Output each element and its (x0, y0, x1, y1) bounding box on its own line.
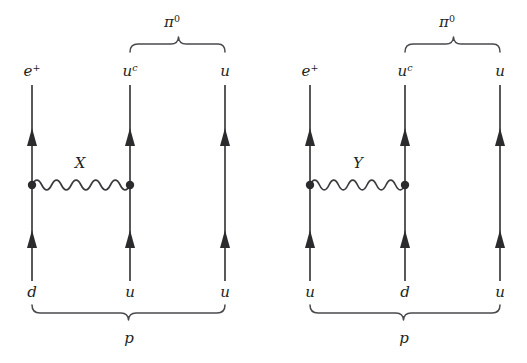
feynman-figure: π0 e+ uc u (0, 0, 527, 363)
arrowhead-up-left-col1-lower (27, 230, 37, 248)
pi-superscript-left: 0 (174, 13, 180, 24)
diagram-left: π0 e+ uc u (24, 13, 230, 347)
arrowhead-up-left-col3-upper (220, 128, 230, 146)
lower-brace-path-right (310, 305, 500, 320)
upper-brace-path-left (130, 37, 225, 52)
top-label-left-col1-sup: + (32, 62, 40, 73)
lower-brace-right (310, 305, 500, 320)
top-label-right-col2-base: u (398, 62, 408, 80)
arrowhead-up-left-col2-lower (125, 230, 135, 248)
top-label-left-col1: e+ (24, 62, 41, 80)
feynman-diagram-canvas: π0 e+ uc u (0, 0, 527, 363)
boson-wavy-line-left (32, 180, 130, 190)
top-label-right-col1-sup: + (310, 62, 318, 73)
vertex-dot-left-start (28, 181, 36, 189)
top-label-left-col2-base: u (123, 62, 133, 80)
boson-label-right: Y (353, 154, 365, 172)
arrowhead-up-right-col3-lower (495, 230, 505, 248)
bottom-label-right-col3: u (495, 283, 505, 301)
top-label-left-col1-base: e (24, 62, 33, 80)
upper-brace-label-left: π0 (163, 13, 180, 31)
bottom-label-left-col2: u (125, 283, 135, 301)
top-label-left-col3: u (220, 62, 230, 80)
top-label-left-col3-base: u (220, 62, 230, 80)
bottom-label-left-col3: u (220, 283, 230, 301)
lower-brace-label-right: p (399, 329, 409, 347)
arrowhead-up-left-col1-upper (27, 128, 37, 146)
top-label-right-col2-sup: c (407, 62, 413, 73)
arrowhead-up-right-col2-upper (400, 128, 410, 146)
top-label-left-col2: uc (123, 62, 139, 80)
bottom-label-right-col2: d (400, 283, 410, 301)
boson-wavy-line-right (310, 180, 405, 190)
bottom-label-left-col1: d (27, 283, 37, 301)
lower-brace-path-left (32, 305, 225, 320)
upper-brace-left (130, 37, 225, 52)
top-label-right-col1: e+ (302, 62, 319, 80)
arrowhead-up-right-col1-lower (305, 230, 315, 248)
arrowhead-up-left-col3-lower (220, 230, 230, 248)
arrowhead-up-left-col2-upper (125, 128, 135, 146)
vertex-dot-right-end (401, 181, 409, 189)
top-label-right-col3: u (495, 62, 505, 80)
vertex-dot-left-end (126, 181, 134, 189)
diagram-right: π0 e+ uc u (302, 13, 505, 347)
upper-brace-label-right: π0 (438, 13, 455, 31)
top-label-right-col3-base: u (495, 62, 505, 80)
upper-brace-right (405, 37, 500, 52)
arrowhead-up-right-col2-lower (400, 230, 410, 248)
arrowhead-up-right-col3-upper (495, 128, 505, 146)
bottom-label-right-col1: u (305, 283, 315, 301)
lower-brace-left (32, 305, 225, 320)
arrowhead-up-right-col1-upper (305, 128, 315, 146)
upper-brace-path-right (405, 37, 500, 52)
top-label-right-col2: uc (398, 62, 414, 80)
pi-superscript-right: 0 (449, 13, 455, 24)
top-label-left-col2-sup: c (132, 62, 138, 73)
boson-label-left: X (74, 154, 87, 172)
vertex-dot-right-start (306, 181, 314, 189)
lower-brace-label-left: p (124, 329, 134, 347)
top-label-right-col1-base: e (302, 62, 311, 80)
